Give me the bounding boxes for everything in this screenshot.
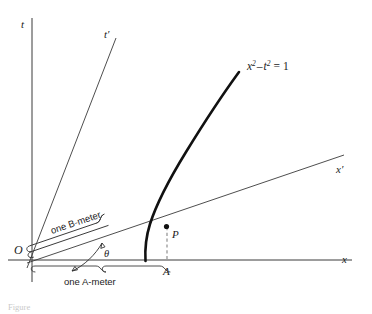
a-meter-label: one A-meter: [64, 276, 116, 287]
eq-equals: =: [274, 60, 281, 72]
eq-x-exponent: 2: [252, 59, 256, 68]
point-p-marker: [164, 224, 169, 229]
point-a-label: A: [162, 265, 170, 277]
eq-minus: –: [256, 60, 263, 72]
theta-label: θ: [104, 248, 109, 259]
x-prime-axis-label: x′: [335, 163, 344, 175]
t-prime-axis-line: [27, 38, 116, 268]
eq-t-exponent: 2: [267, 59, 271, 68]
x-axis-label: x: [341, 253, 347, 265]
point-p-label: P: [171, 228, 179, 240]
theta-angle-arc: [72, 243, 102, 271]
eq-value: 1: [283, 60, 289, 72]
hyperbola-curve: [145, 72, 239, 261]
a-meter-brace-path: [31, 266, 170, 272]
x-prime-axis-line: [27, 155, 344, 263]
spacetime-diagram: t t′ x x′ O P A θ one B-meter one A-mete…: [0, 0, 372, 314]
figure-root: t t′ x x′ O P A θ one B-meter one A-mete…: [0, 0, 372, 314]
t-prime-axis-label: t′: [104, 28, 110, 40]
theta-arrow-head-lower: [72, 267, 78, 272]
figure-caption: Figure: [0, 301, 372, 314]
origin-label: O: [14, 243, 23, 257]
hyperbola-equation-label: x2–t2=1: [246, 59, 289, 72]
t-axis-label: t: [21, 18, 25, 30]
b-meter-label: one B-meter: [49, 209, 102, 236]
